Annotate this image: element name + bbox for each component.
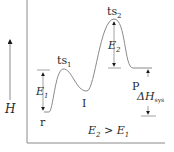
e1-label: E1	[35, 85, 49, 100]
ts1-label: ts1	[57, 54, 72, 69]
e2-label: E2	[107, 39, 121, 54]
ts2-label: ts2	[107, 5, 122, 20]
condition-label: E2 > E1	[87, 124, 129, 139]
energy-diagram: H ts1 ts2 r I P E1 E2 ΔHsys E2 > E1	[0, 0, 174, 152]
intermediate-label: I	[82, 97, 86, 110]
y-axis-label: H	[4, 102, 16, 116]
dh-label: ΔHsys	[136, 90, 164, 104]
reactant-label: r	[40, 116, 46, 129]
energy-diagram-svg: H ts1 ts2 r I P E1 E2 ΔHsys E2 > E1	[0, 0, 174, 152]
